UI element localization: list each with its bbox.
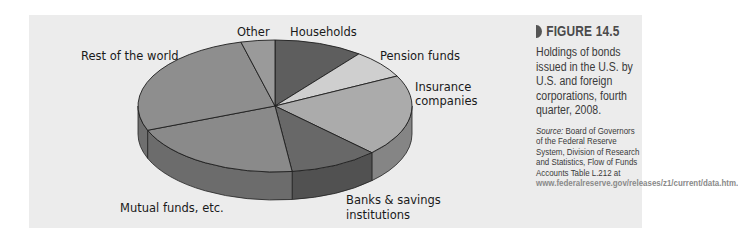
label-households: Households bbox=[290, 25, 357, 39]
figure-number: FIGURE 14.5 bbox=[546, 23, 619, 39]
label-rest-of-world: Rest of the world bbox=[81, 49, 179, 63]
label-banks-1: Banks & savings bbox=[346, 193, 441, 207]
figure-description: Holdings of bonds issued in the U.S. by … bbox=[536, 45, 642, 118]
label-insurance-1: Insurance bbox=[415, 80, 471, 94]
label-other: Other bbox=[237, 25, 270, 39]
figure-caption: FIGURE 14.5 Holdings of bonds issued in … bbox=[536, 23, 642, 189]
figure-source: Source: Board of Governors of the Federa… bbox=[536, 126, 643, 190]
label-pension-funds: Pension funds bbox=[380, 49, 460, 63]
label-mutual-funds: Mutual funds, etc. bbox=[120, 201, 224, 215]
figure-title: FIGURE 14.5 bbox=[536, 23, 626, 39]
source-label: Source: bbox=[536, 126, 563, 136]
label-banks-2: institutions bbox=[346, 208, 410, 222]
source-url[interactable]: www.federalreserve.gov/releases/z1/curre… bbox=[536, 178, 738, 188]
figure-marker-icon bbox=[536, 25, 542, 38]
label-insurance-2: companies bbox=[415, 94, 477, 108]
